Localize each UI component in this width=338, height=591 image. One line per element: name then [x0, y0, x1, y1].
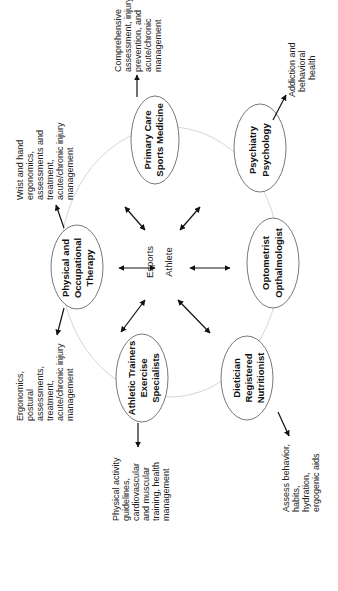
- primary-care-desc-1: assessment, injury: [123, 0, 133, 72]
- dietician-label-line2: Registered: [243, 353, 254, 402]
- psychiatry-label-line2: Psychology: [260, 123, 271, 177]
- node-psychiatry: Psychiatry Psychology Addiction and beha…: [234, 42, 317, 192]
- arrow-center-dietician: [178, 300, 210, 333]
- physical-therapy-upper-desc-5: management: [65, 147, 75, 200]
- athletic-trainers-desc-1: guidelines,: [121, 478, 131, 521]
- optometrist-label-line2: Opthalmologist: [273, 227, 284, 298]
- center-node: Esports Athlete: [144, 246, 174, 278]
- physical-therapy-lower-desc-2: assessments,: [35, 366, 45, 421]
- arrow-dietician-desc: [278, 412, 289, 436]
- physical-therapy-lower-desc-4: acute/chronic injury: [55, 343, 65, 421]
- physical-therapy-upper-desc-1: ergonomics,: [25, 151, 35, 200]
- dietician-desc-2: hydration,: [301, 472, 311, 512]
- physical-therapy-label-line2: Occupational: [72, 238, 83, 298]
- node-athletic-trainers: Athletic Trainers Exercise Specialists P…: [111, 334, 171, 521]
- primary-care-label-line1: Primary Care: [142, 110, 153, 169]
- node-dietician: Dietician Registered Nutritionist Assess…: [221, 336, 321, 512]
- athletic-trainers-label-line1: Athletic Trainers: [126, 341, 137, 415]
- primary-care-desc-0: Comprehensive: [113, 9, 123, 72]
- center-label-line2: Athlete: [163, 247, 174, 277]
- physical-therapy-lower-desc-0: Ergonomics,: [15, 371, 25, 421]
- dietician-desc-0: Assess behavior,: [281, 444, 291, 512]
- athletic-trainers-desc-0: Physical activity: [111, 457, 121, 521]
- arrow-physical-therapy-upper: [56, 205, 64, 228]
- athletic-trainers-label-line2: Exercise: [138, 358, 149, 397]
- physical-therapy-upper-desc-2: assessments and: [35, 130, 45, 200]
- athletic-trainers-desc-3: and muscular: [141, 467, 151, 521]
- psychiatry-label-line1: Psychiatry: [247, 125, 258, 174]
- care-team-diagram: Esports Athlete Primary Care Sports Medi…: [0, 0, 338, 591]
- athletic-trainers-desc-5: management: [161, 468, 171, 521]
- node-optometrist: Optometrist Opthalmologist: [247, 218, 299, 308]
- arrow-psychiatry-desc: [273, 95, 286, 120]
- dietician-label-line3: Nutritionist: [255, 352, 266, 403]
- primary-care-label-line2: Sports Medicine: [154, 103, 165, 176]
- psychiatry-desc-0: Addiction and: [287, 42, 297, 97]
- physical-therapy-label-line3: Therapy: [84, 249, 95, 287]
- dietician-label-line1: Dietician: [231, 358, 242, 398]
- primary-care-desc-2: prevention, and: [133, 10, 143, 72]
- dietician-desc-3: ergogenic aids: [311, 453, 321, 512]
- psychiatry-desc-2: health: [307, 55, 317, 80]
- node-primary-care: Primary Care Sports Medicine Comprehensi…: [113, 0, 179, 184]
- athletic-trainers-desc-4: training, health: [151, 462, 161, 521]
- athletic-trainers-desc-2: cardiovascular: [131, 463, 141, 521]
- node-physical-occupational: Physical and Occupational Therapy Wrist …: [15, 122, 103, 421]
- physical-therapy-upper-desc-4: acute/chronic injury: [55, 122, 65, 200]
- optometrist-label-line1: Optometrist: [260, 235, 271, 290]
- arrow-center-athletic-trainers: [121, 300, 145, 332]
- arrow-center-psychiatry: [180, 207, 200, 230]
- psychiatry-desc-1: behavioral: [297, 50, 307, 92]
- physical-therapy-upper-desc-3: treatment,: [45, 159, 55, 200]
- athletic-trainers-label-line3: Specialists: [150, 353, 161, 403]
- arrow-center-primary-care: [125, 207, 145, 230]
- center-label-line1: Esports: [144, 246, 155, 278]
- dietician-desc-1: habits,: [291, 485, 301, 512]
- physical-therapy-label-line1: Physical and: [60, 239, 71, 297]
- primary-care-desc-3: acute/chronic: [143, 18, 153, 72]
- arrow-physical-therapy-lower: [57, 308, 64, 335]
- physical-therapy-upper-desc-0: Wrist and hand: [15, 140, 25, 200]
- physical-therapy-lower-desc-5: management: [65, 368, 75, 421]
- primary-care-desc-4: management: [153, 19, 163, 72]
- physical-therapy-lower-desc-1: postural: [25, 389, 35, 421]
- physical-therapy-lower-desc-3: treatment,: [45, 380, 55, 421]
